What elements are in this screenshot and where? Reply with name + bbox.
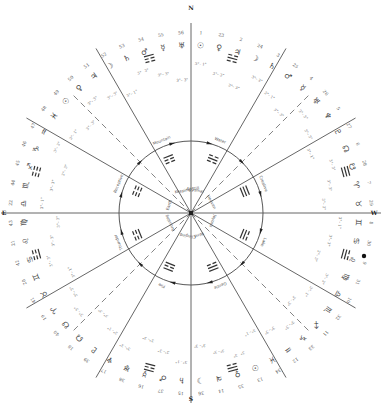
degree-range-label: 3°– 1° xyxy=(175,359,187,365)
planet-glyph-icon: ☉ xyxy=(60,96,71,107)
ring-number: 27 xyxy=(345,122,352,130)
ring-number: 5 xyxy=(335,106,341,111)
planet-glyph-icon: ♀ xyxy=(233,369,241,379)
degree-range-label: 3°– 1° xyxy=(337,217,343,229)
ring-number: 34 xyxy=(274,367,282,374)
compass-n: N xyxy=(188,4,194,11)
degree-range-label: 3°– 1° xyxy=(66,266,76,279)
planet-glyph-icon: ♈ xyxy=(351,181,361,190)
degree-range-label: 3°– 3° xyxy=(137,67,150,76)
planet-glyph-icon: ♂ xyxy=(140,47,149,58)
planet-glyph-icon: ♊ xyxy=(31,272,42,282)
ring-number: 39 xyxy=(83,356,91,363)
ring-number: 32 xyxy=(334,314,341,322)
planet-glyph-icon: ♇ xyxy=(332,127,343,138)
planet-glyph-icon: ♂ xyxy=(282,71,293,82)
planet-glyph-icon: ♍ xyxy=(340,272,351,282)
arrow-icon xyxy=(119,191,123,198)
planet-glyph-icon: ☋ xyxy=(347,162,358,171)
wheel-svg: MountainWaterCreativeLakeGentleFireThund… xyxy=(0,0,385,403)
degree-range-label: 3°– 1° xyxy=(303,285,314,298)
planet-glyph-icon: ♏ xyxy=(21,180,31,189)
planet-glyph-icon: ☋ xyxy=(60,319,71,330)
arrow-icon xyxy=(119,228,123,235)
planet-glyph-icon: ♄ xyxy=(178,376,186,385)
spoke-line xyxy=(26,118,191,213)
ring-number: 35 xyxy=(237,383,244,389)
planet-glyph-icon: ♄ xyxy=(122,53,132,64)
planet-glyph-icon: ☽ xyxy=(197,376,205,385)
ring-number: 54 xyxy=(138,36,145,42)
planet-glyph-icon: ♒ xyxy=(282,344,293,355)
degree-range-label: 3°– 3° xyxy=(228,82,241,91)
degree-range-label: 3°– 3° xyxy=(97,308,109,320)
ring-number: 3 xyxy=(276,52,281,58)
ring-number: 31 xyxy=(354,278,361,285)
degree-range-label: 3°– 1° xyxy=(39,197,45,209)
ring-number: 45 xyxy=(14,159,20,166)
planet-glyph-icon: ♐ xyxy=(310,319,321,330)
degree-range-label: 3°– 3° xyxy=(176,77,188,83)
planet-glyph-icon: ♍ xyxy=(19,219,28,227)
degree-range-label: 3°– 3° xyxy=(49,179,56,192)
planet-glyph-icon: ♑ xyxy=(31,144,42,154)
ring-number: 6 xyxy=(355,142,361,147)
ring-number: 55 xyxy=(158,32,165,38)
planet-glyph-icon: ♓ xyxy=(267,354,278,365)
planet-glyph-icon: ♀ xyxy=(215,43,222,53)
planet-glyph-icon: ♊ xyxy=(354,219,363,227)
ring-number: 36 xyxy=(198,391,204,396)
ring-number: 33 xyxy=(307,344,315,352)
degree-range-label: 3°– 3° xyxy=(321,198,327,210)
degree-range-label: 3°– 3° xyxy=(326,234,333,247)
ring-number: 26 xyxy=(322,89,330,97)
ring-number: 44 xyxy=(10,179,16,186)
planet-glyph-icon: ♌ xyxy=(21,237,31,246)
arrow-icon xyxy=(206,280,213,284)
ring-number: 50 xyxy=(67,75,75,83)
degree-range-label: 3°– 3° xyxy=(194,343,206,349)
planet-glyph-icon: ♈ xyxy=(49,304,60,315)
ring-number: 25 xyxy=(292,62,300,69)
inner-trigram-icon xyxy=(240,186,249,198)
spoke-line xyxy=(191,213,356,308)
ring-number: 8 xyxy=(369,222,374,225)
arrow-icon xyxy=(169,280,176,284)
degree-range-label: 3°– 3° xyxy=(118,342,131,352)
inner-trigram-icon xyxy=(207,262,219,271)
marker-dot xyxy=(362,254,366,258)
planet-glyph-icon: ☊ xyxy=(74,332,85,343)
compass-e: E xyxy=(2,209,7,216)
degree-range-label: 3°– 3° xyxy=(273,107,285,119)
ring-number: 49 xyxy=(53,89,61,97)
degree-range-label: 3°– 1° xyxy=(68,128,79,141)
degree-range-label: 3°– 3° xyxy=(328,159,337,172)
degree-range-label: 3°– 3° xyxy=(157,71,170,78)
inner-trigram-icon xyxy=(133,186,142,198)
inner-trigram-icon xyxy=(164,262,176,271)
degree-range-label: 3°– 1° xyxy=(126,88,139,98)
degree-range-label: 3°– 3° xyxy=(55,216,61,228)
degree-range-label: 3°– 3° xyxy=(157,348,170,355)
planet-glyph-icon: ♆ xyxy=(322,111,333,122)
ring-number: 2 xyxy=(239,37,243,43)
center-label: Heaven xyxy=(206,194,218,210)
planet-glyph-icon: ♌ xyxy=(347,255,358,264)
center-label: Clinging xyxy=(179,233,196,240)
arrow-icon xyxy=(258,228,262,235)
arrow-icon xyxy=(206,141,213,145)
planet-glyph-icon: ♃ xyxy=(89,71,100,82)
compass-w: W xyxy=(370,209,378,216)
planet-glyph-icon: ☽ xyxy=(250,53,260,64)
ring-number: 22 xyxy=(8,200,13,206)
ring-number: 20 xyxy=(21,278,28,285)
planet-glyph-icon: ♄ xyxy=(267,61,278,72)
planet-glyph-icon: ♎ xyxy=(19,200,28,208)
ring-number: 40 xyxy=(53,329,61,337)
degree-range-label: 3°– 1° xyxy=(106,325,119,336)
planet-glyph-icon: ☉ xyxy=(197,41,205,50)
planet-glyph-icon: ♃ xyxy=(233,47,242,58)
planet-glyph-icon: ♃ xyxy=(215,373,224,383)
ring-number: 15 xyxy=(178,391,184,396)
planet-glyph-icon: ♋ xyxy=(25,255,36,264)
